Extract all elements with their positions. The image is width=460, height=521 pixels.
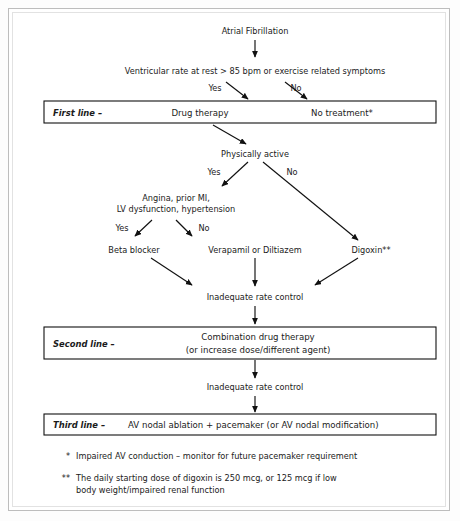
box-first-line bbox=[44, 101, 436, 123]
node-verapamil-diltiazem: Verapamil or Diltiazem bbox=[208, 245, 301, 255]
branch-label-comorbid-no: No bbox=[198, 223, 209, 233]
node-beta-blocker: Beta blocker bbox=[108, 245, 160, 255]
flowchart-canvas: Atrial Fibrillation Ventricular rate at … bbox=[0, 0, 460, 521]
footnote-1-marker: * bbox=[66, 451, 70, 461]
box-third-line-label: Third line – bbox=[53, 420, 105, 430]
box-first-line-option-drug-therapy: Drug therapy bbox=[171, 108, 228, 118]
node-physically-active: Physically active bbox=[221, 149, 289, 159]
node-rate-criteria: Ventricular rate at rest > 85 bpm or exe… bbox=[125, 66, 386, 76]
arrow-active-no bbox=[263, 162, 358, 240]
arrow-drug-therapy-to-physically-active bbox=[213, 125, 246, 144]
arrow-beta-blocker-to-inadequate bbox=[151, 258, 192, 285]
node-digoxin: Digoxin** bbox=[351, 245, 390, 255]
box-second-line-body-line1: Combination drug therapy bbox=[201, 332, 314, 342]
footnote-2-line1: The daily starting dose of digoxin is 25… bbox=[75, 473, 337, 483]
branch-label-active-yes: Yes bbox=[206, 167, 220, 177]
node-inadequate-rate-control-2: Inadequate rate control bbox=[207, 382, 304, 392]
branch-label-comorbid-yes: Yes bbox=[114, 223, 128, 233]
arrow-active-yes bbox=[222, 162, 248, 186]
node-comorbidity-line2: LV dysfunction, hypertension bbox=[117, 204, 236, 214]
arrow-comorbid-no bbox=[176, 220, 192, 236]
footnote-2-line2: body weight/impaired renal function bbox=[76, 485, 225, 495]
flowchart-page: Atrial Fibrillation Ventricular rate at … bbox=[0, 0, 460, 521]
arrow-comorbid-yes bbox=[135, 220, 152, 236]
arrow-criteria-yes bbox=[226, 82, 248, 99]
node-inadequate-rate-control-1: Inadequate rate control bbox=[207, 292, 304, 302]
node-comorbidity-line1: Angina, prior MI, bbox=[142, 193, 210, 203]
box-first-line-option-no-treatment: No treatment* bbox=[311, 108, 374, 118]
arrow-digoxin-to-inadequate bbox=[315, 258, 358, 285]
box-third-line-body: AV nodal ablation + pacemaker (or AV nod… bbox=[128, 420, 379, 430]
branch-label-criteria-yes: Yes bbox=[207, 83, 221, 93]
box-second-line-label: Second line – bbox=[53, 339, 115, 349]
node-atrial-fibrillation: Atrial Fibrillation bbox=[222, 26, 289, 36]
branch-label-active-no: No bbox=[286, 167, 297, 177]
footnote-2-marker: ** bbox=[62, 473, 70, 483]
box-second-line-body-line2: (or increase dose/different agent) bbox=[186, 345, 331, 355]
footnote-1-text: Impaired AV conduction – monitor for fut… bbox=[76, 451, 358, 461]
box-first-line-label: First line – bbox=[53, 108, 102, 118]
